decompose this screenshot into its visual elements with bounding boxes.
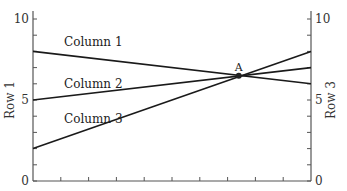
y-axis-title-left: Row 1 xyxy=(3,81,17,119)
point-label: A xyxy=(234,61,244,74)
y-tick-label-right: 10 xyxy=(315,12,330,26)
series-label: Column 2 xyxy=(64,77,123,91)
series-label: Column 3 xyxy=(64,112,123,126)
series-labels: Column 1Column 2Column 3 xyxy=(64,35,123,126)
y-tick-label-left: 5 xyxy=(21,93,29,107)
series-label: Column 1 xyxy=(64,35,123,49)
line-chart: 05100510Row 1Row 3 Column 1Column 2Colum… xyxy=(0,0,347,191)
y-tick-label-left: 10 xyxy=(14,12,29,26)
axes: 05100510Row 1Row 3 xyxy=(3,11,338,188)
y-axis-title-right: Row 3 xyxy=(324,81,338,119)
series-line xyxy=(33,51,311,148)
y-tick-label-right: 5 xyxy=(315,93,323,107)
series-lines xyxy=(33,51,311,148)
y-tick-label-left: 0 xyxy=(21,174,29,188)
y-tick-label-right: 0 xyxy=(315,174,323,188)
